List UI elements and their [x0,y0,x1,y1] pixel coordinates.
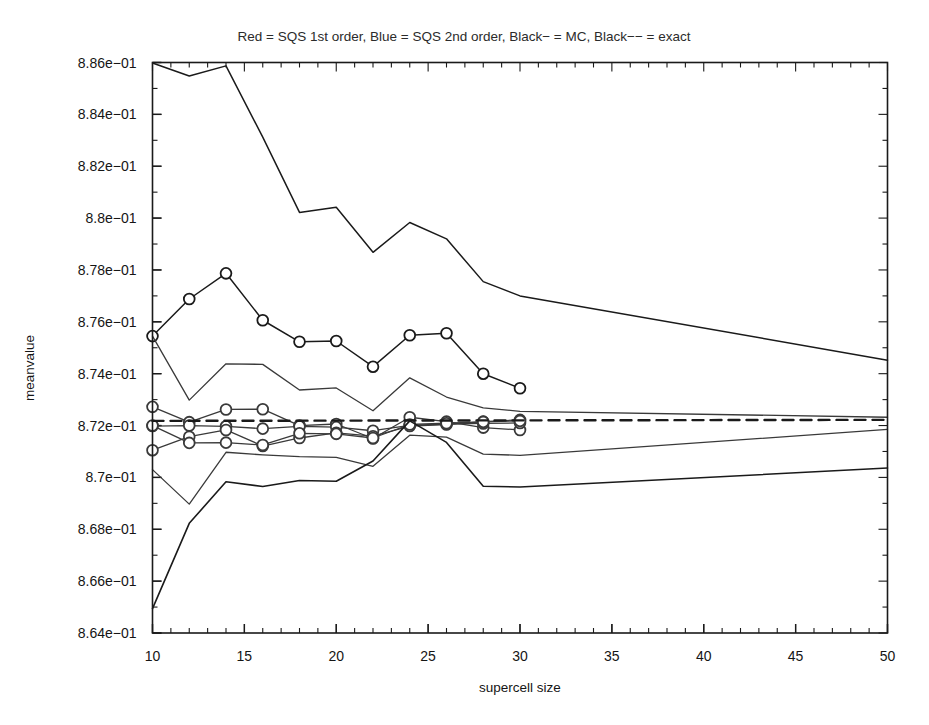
data-point-marker [441,328,452,339]
y-tick-label: 8.72e−01 [78,418,137,434]
x-tick-label: 25 [420,648,436,664]
data-point-marker [368,361,379,372]
data-point-marker [221,425,232,436]
y-tick-label: 8.64e−01 [78,625,137,641]
y-tick-label: 8.82e−01 [78,158,137,174]
y-tick-label: 8.74e−01 [78,366,137,382]
y-tick-label: 8.68e−01 [78,521,137,537]
y-tick-label: 8.66e−01 [78,573,137,589]
data-point-marker [184,294,195,305]
data-point-marker [478,368,489,379]
chart-background [0,0,929,725]
data-point-marker [294,336,305,347]
x-tick-label: 10 [145,648,161,664]
x-tick-label: 30 [512,648,528,664]
y-axis-label: meanvalue [22,335,37,401]
y-tick-label: 8.86e−01 [78,55,137,71]
x-tick-label: 40 [696,648,712,664]
x-tick-label: 20 [328,648,344,664]
data-point-marker [331,336,342,347]
x-tick-label: 45 [788,648,804,664]
y-tick-label: 8.84e−01 [78,106,137,122]
data-point-marker [221,404,232,415]
data-point-marker [515,383,526,394]
x-tick-label: 35 [604,648,620,664]
data-point-marker [257,440,268,451]
chart-figure: Red = SQS 1st order, Blue = SQS 2nd orde… [0,0,929,725]
data-point-marker [221,437,232,448]
y-tick-label: 8.8e−01 [86,210,137,226]
x-axis-label-text: supercell size [479,680,561,695]
data-point-marker [257,423,268,434]
y-tick-label: 8.76e−01 [78,314,137,330]
data-point-marker [257,404,268,415]
line-chart: Red = SQS 1st order, Blue = SQS 2nd orde… [0,0,929,725]
chart-title: Red = SQS 1st order, Blue = SQS 2nd orde… [238,29,691,44]
data-point-marker [257,315,268,326]
data-point-marker [368,433,379,444]
data-point-marker [331,428,342,439]
y-tick-label: 8.7e−01 [86,469,137,485]
y-tick-label: 8.78e−01 [78,262,137,278]
x-tick-label: 15 [237,648,253,664]
x-tick-label: 50 [880,648,896,664]
data-point-marker [184,438,195,449]
data-point-marker [478,417,489,428]
y-axis-label-text: meanvalue [22,335,37,401]
data-point-marker [221,268,232,279]
data-point-marker [294,428,305,439]
data-point-marker [404,330,415,341]
